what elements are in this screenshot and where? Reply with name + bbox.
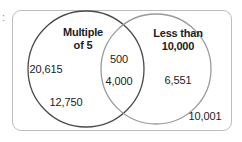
left-set-label-line2: of 5: [74, 39, 93, 51]
right-set-label-line1: Less than: [153, 27, 203, 39]
left-only-value-1: 20,615: [18, 63, 74, 76]
edge-colon-glyph: :: [2, 12, 4, 23]
right-set-label: Less than 10,000: [136, 27, 220, 53]
left-only-value-2: 12,750: [38, 96, 94, 109]
outside-value-1: 10,001: [181, 110, 229, 123]
left-set-label-line1: Multiple: [63, 26, 103, 38]
left-set-label: Multiple of 5: [42, 26, 124, 52]
edge-colon-mark: :: [2, 12, 4, 26]
right-set-label-line2: 10,000: [162, 40, 194, 52]
intersection-value-2: 4,000: [96, 75, 142, 88]
right-only-value-1: 6,551: [155, 74, 201, 87]
venn-diagram-figure: : Multiple of 5 Less than 10,000 20,615 …: [0, 0, 242, 142]
intersection-value-1: 500: [101, 53, 137, 66]
